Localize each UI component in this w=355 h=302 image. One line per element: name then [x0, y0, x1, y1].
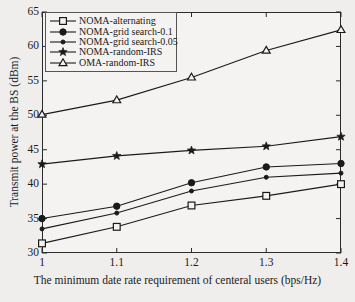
series-3 — [38, 132, 345, 168]
legend-item-4[interactable]: OMA-random-IRS — [49, 58, 172, 68]
y-axis-title: Transmit power at the BS (dBm) — [8, 32, 20, 232]
open-square-icon — [49, 16, 77, 26]
x-tick-label: 1.1 — [97, 256, 137, 268]
open-triangle-icon — [49, 58, 77, 68]
y-tick-label: 65 — [11, 6, 39, 18]
x-axis-tick-labels: 11.11.21.31.4 — [42, 256, 341, 270]
x-tick-label: 1.4 — [321, 256, 355, 268]
legend-item-0[interactable]: NOMA-alternating — [49, 16, 172, 26]
legend-label: OMA-random-IRS — [77, 58, 155, 68]
filled-circle-large-icon — [49, 27, 77, 37]
x-tick-label: 1 — [22, 256, 62, 268]
x-tick-label: 1.3 — [246, 256, 286, 268]
legend-item-3[interactable]: NOMA-random-IRS — [49, 47, 172, 57]
filled-circle-small-icon — [49, 37, 77, 47]
legend-label: NOMA-random-IRS — [77, 47, 162, 57]
filled-star-icon — [49, 47, 77, 57]
figure-container: 3035404550556065 11.11.21.31.4 The minim… — [0, 0, 355, 302]
legend-label: NOMA-alternating — [77, 16, 156, 26]
x-axis-title: The minimum date rate requirement of cen… — [0, 274, 355, 286]
legend: NOMA-alternatingNOMA-grid search-0.1NOMA… — [45, 12, 177, 72]
x-tick-label: 1.2 — [172, 256, 212, 268]
